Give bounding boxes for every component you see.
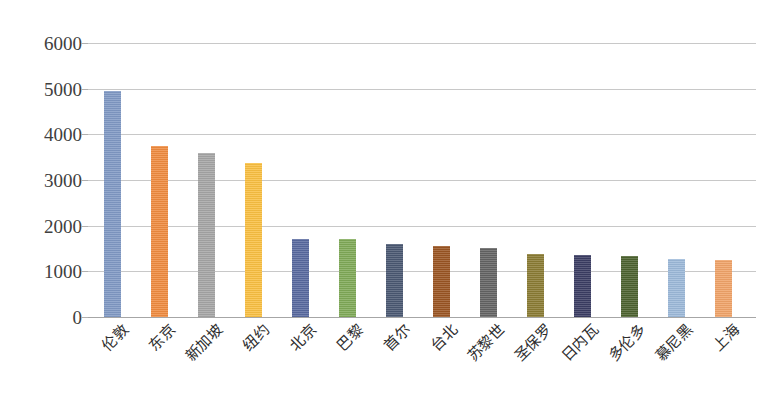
x-tick-label: 东京	[147, 322, 179, 354]
bar	[292, 239, 309, 317]
x-tick-label: 北京	[288, 322, 320, 354]
ytick-mark-4000	[81, 134, 88, 135]
bar	[574, 255, 591, 317]
bar	[668, 259, 685, 317]
ytick-mark-0	[81, 317, 88, 318]
bar-chart: 6000 5000 4000 3000 2000 1000 0 伦敦东京新加坡纽…	[0, 0, 774, 406]
x-tick-label: 圣保罗	[512, 322, 554, 364]
x-tick-label: 新加坡	[183, 322, 225, 364]
bar-series	[88, 43, 756, 317]
bar	[621, 256, 638, 317]
x-tick-label: 巴黎	[335, 322, 367, 354]
x-tick-label: 首尔	[382, 322, 414, 354]
ytick-mark-2000	[81, 226, 88, 227]
bar	[480, 248, 497, 317]
ytick-label-2000: 2000	[0, 217, 82, 236]
x-tick-label: 多伦多	[606, 322, 648, 364]
bar	[151, 146, 168, 317]
bar	[433, 246, 450, 317]
ytick-label-3000: 3000	[0, 171, 82, 190]
bar	[527, 254, 544, 317]
bar	[386, 244, 403, 317]
ytick-mark-1000	[81, 271, 88, 272]
ytick-label-5000: 5000	[0, 80, 82, 99]
x-tick-label: 日内瓦	[559, 322, 601, 364]
x-tick-label: 台北	[429, 322, 461, 354]
ytick-mark-3000	[81, 180, 88, 181]
x-axis-line	[88, 317, 756, 318]
bar	[245, 163, 262, 317]
bar	[104, 91, 121, 317]
ytick-mark-6000	[81, 43, 88, 44]
ytick-label-4000: 4000	[0, 125, 82, 144]
bar	[339, 239, 356, 317]
bar	[715, 260, 732, 317]
x-tick-label: 慕尼黑	[653, 322, 695, 364]
x-tick-label: 伦敦	[100, 322, 132, 354]
ytick-label-6000: 6000	[0, 34, 82, 53]
ytick-label-0: 0	[0, 308, 82, 327]
x-tick-label: 苏黎世	[465, 322, 507, 364]
x-tick-label: 纽约	[241, 322, 273, 354]
x-tick-label: 上海	[711, 322, 743, 354]
ytick-mark-5000	[81, 89, 88, 90]
bar	[198, 153, 215, 317]
ytick-label-1000: 1000	[0, 262, 82, 281]
